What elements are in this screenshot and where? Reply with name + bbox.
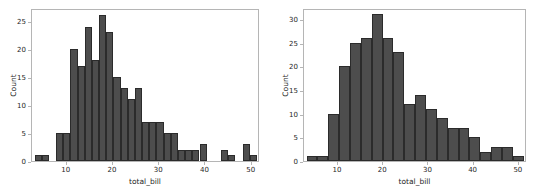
histogram-bar <box>99 15 106 161</box>
y-tick-mark <box>28 22 31 23</box>
histogram-bar <box>70 49 77 161</box>
figure-two-histograms: 05101520251020304050 total_bill Count 05… <box>0 0 534 188</box>
histogram-bar <box>200 144 207 161</box>
histogram-bar <box>142 122 149 161</box>
plot-area-right <box>303 9 526 162</box>
histogram-bar <box>415 95 426 161</box>
x-axis-label-right: total_bill <box>399 177 431 186</box>
histogram-bar <box>480 152 491 161</box>
x-tick-mark <box>518 162 519 165</box>
y-axis-label-left: Count <box>9 65 18 105</box>
x-tick-label: 30 <box>423 166 432 174</box>
y-tick-label: 5 <box>7 130 26 138</box>
histogram-bar <box>42 155 49 161</box>
histogram-bar <box>171 133 178 161</box>
histogram-bar <box>393 52 404 161</box>
histogram-panel-left: 05101520251020304050 total_bill Count <box>0 0 267 188</box>
y-tick-label: 10 <box>279 111 298 119</box>
histogram-bar <box>192 150 199 161</box>
x-tick-mark <box>473 162 474 165</box>
histogram-bar <box>448 128 459 161</box>
y-tick-mark <box>300 20 303 21</box>
y-tick-mark <box>300 44 303 45</box>
x-tick-label: 50 <box>246 166 255 174</box>
histogram-bar <box>317 156 328 161</box>
x-tick-label: 10 <box>332 166 341 174</box>
histogram-bar <box>35 155 42 161</box>
histogram-bar <box>113 77 120 161</box>
histogram-bar <box>78 66 85 161</box>
y-tick-mark <box>28 134 31 135</box>
plot-area-left <box>31 9 259 162</box>
x-tick-label: 40 <box>468 166 477 174</box>
histogram-bar <box>350 43 361 161</box>
bars-container-right <box>304 10 525 161</box>
x-tick-label: 20 <box>107 166 116 174</box>
histogram-panel-right: 0510152025301020304050 total_bill Count <box>267 0 534 188</box>
y-tick-mark <box>300 91 303 92</box>
histogram-bar <box>328 114 339 161</box>
histogram-bar <box>372 14 383 161</box>
histogram-bar <box>307 156 318 161</box>
histogram-bar <box>121 88 128 161</box>
histogram-bar <box>149 122 156 161</box>
x-tick-mark <box>204 162 205 165</box>
histogram-bar <box>156 122 163 161</box>
y-tick-label: 30 <box>279 16 298 24</box>
histogram-bar <box>228 155 235 161</box>
y-tick-mark <box>300 67 303 68</box>
histogram-bar <box>178 150 185 161</box>
x-tick-label: 30 <box>154 166 163 174</box>
y-tick-mark <box>28 78 31 79</box>
y-tick-mark <box>28 162 31 163</box>
histogram-bar <box>459 128 470 161</box>
x-axis-label-left: total_bill <box>129 177 161 186</box>
y-tick-mark <box>300 162 303 163</box>
histogram-bar <box>135 88 142 161</box>
histogram-bar <box>185 150 192 161</box>
y-tick-mark <box>28 106 31 107</box>
x-tick-label: 20 <box>378 166 387 174</box>
histogram-bar <box>339 66 350 161</box>
histogram-bar <box>106 32 113 161</box>
x-tick-mark <box>112 162 113 165</box>
histogram-bar <box>221 150 228 161</box>
histogram-bar <box>404 104 415 161</box>
histogram-bar <box>250 155 257 161</box>
histogram-bar <box>513 156 524 161</box>
x-tick-label: 50 <box>513 166 522 174</box>
y-tick-label: 0 <box>279 158 298 166</box>
y-tick-mark <box>28 50 31 51</box>
x-tick-mark <box>337 162 338 165</box>
histogram-bar <box>361 38 372 161</box>
histogram-bar <box>491 147 502 161</box>
histogram-bar <box>85 27 92 162</box>
x-tick-mark <box>382 162 383 165</box>
histogram-bar <box>469 137 480 161</box>
y-tick-label: 5 <box>279 134 298 142</box>
y-tick-mark <box>300 115 303 116</box>
y-tick-label: 25 <box>279 40 298 48</box>
y-tick-label: 0 <box>7 158 26 166</box>
histogram-bar <box>63 133 70 161</box>
y-tick-label: 20 <box>7 46 26 54</box>
x-tick-label: 10 <box>61 166 70 174</box>
x-tick-mark <box>66 162 67 165</box>
histogram-bar <box>164 133 171 161</box>
x-tick-mark <box>427 162 428 165</box>
histogram-bar <box>92 60 99 161</box>
x-tick-mark <box>158 162 159 165</box>
bars-container-left <box>32 10 258 161</box>
y-tick-label: 25 <box>7 18 26 26</box>
y-axis-label-right: Count <box>281 65 290 105</box>
x-tick-mark <box>251 162 252 165</box>
histogram-bar <box>502 147 513 161</box>
histogram-bar <box>426 109 437 161</box>
histogram-bar <box>56 133 63 161</box>
y-tick-mark <box>300 138 303 139</box>
histogram-bar <box>437 118 448 161</box>
histogram-bar <box>383 38 394 161</box>
x-tick-label: 40 <box>200 166 209 174</box>
histogram-bar <box>128 99 135 161</box>
histogram-bar <box>243 144 250 161</box>
